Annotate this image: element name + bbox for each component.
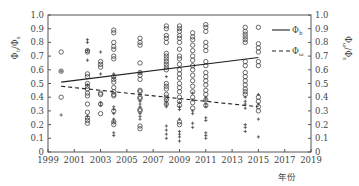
plus-marker: [99, 50, 102, 53]
plus-marker: [244, 126, 247, 129]
plus-marker: [165, 133, 168, 136]
x-tick-label: 2005: [116, 155, 138, 165]
y-tick-label: 0.5: [315, 79, 329, 89]
circle-marker: [190, 84, 194, 88]
left-y-axis-label: Φb/Φs: [10, 36, 21, 59]
circle-marker: [112, 31, 116, 35]
y-tick-label: 0.4: [30, 92, 44, 102]
plus-marker: [178, 135, 181, 138]
y-tick-label: 0.9: [315, 24, 329, 34]
circle-marker: [85, 110, 89, 114]
circle-marker: [243, 40, 247, 44]
plus-marker: [178, 105, 181, 108]
circle-marker: [85, 94, 89, 98]
plus-marker: [86, 59, 89, 62]
plus-marker: [165, 75, 168, 78]
y-tick-label: 0.2: [315, 120, 329, 130]
plus-marker: [86, 115, 89, 118]
circle-marker: [98, 65, 102, 69]
circle-marker: [177, 47, 181, 51]
plus-marker: [86, 49, 89, 52]
legend-label: Φb: [292, 25, 303, 36]
legend-label: Φω: [292, 46, 304, 57]
circle-marker: [164, 27, 168, 31]
x-tick-label: 2013: [221, 155, 243, 165]
y-tick-label: 0.8: [315, 37, 329, 47]
plus-marker: [244, 123, 247, 126]
x-axis-label: 年份: [278, 172, 296, 182]
circle-marker: [190, 37, 194, 41]
plus-marker: [165, 124, 168, 127]
circle-marker: [59, 50, 63, 54]
circle-marker: [59, 95, 63, 99]
plus-marker: [204, 116, 207, 119]
plus-marker: [204, 119, 207, 122]
plus-marker: [112, 131, 115, 134]
data-points: [59, 22, 261, 142]
plus-marker: [204, 131, 207, 134]
circle-marker: [85, 121, 89, 125]
plus-marker: [191, 122, 194, 125]
x-tick-label: 2003: [90, 155, 112, 165]
y-tick-label: 0.2: [30, 120, 44, 130]
y-tick-label: 0.1: [30, 133, 44, 143]
circle-marker: [138, 127, 142, 131]
circle-marker: [190, 43, 194, 47]
scatter-chart: 00.10.20.30.40.50.60.70.80.91.0 00.10.20…: [0, 0, 359, 186]
plus-marker: [204, 102, 207, 105]
plus-marker: [138, 115, 141, 118]
plus-marker: [99, 104, 102, 107]
x-tick-label: 2007: [142, 155, 164, 165]
plus-marker: [191, 126, 194, 129]
x-tick-label: 2015: [248, 155, 270, 165]
y-tick-label: 0.8: [30, 37, 44, 47]
circle-marker: [112, 80, 116, 84]
circle-marker: [177, 122, 181, 126]
legend: ΦbΦω: [272, 25, 304, 57]
circle-marker: [98, 111, 102, 115]
x-tick-label: 2009: [169, 155, 191, 165]
circle-marker: [164, 87, 168, 91]
svg-text:Φω/Φs: Φω/Φs: [342, 36, 353, 60]
circle-marker: [138, 61, 142, 65]
plus-marker: [244, 130, 247, 133]
plus-marker: [204, 98, 207, 101]
circle-marker: [112, 47, 116, 51]
y-tick-label: 0.6: [315, 65, 329, 75]
phi-w-trend-line: [61, 86, 258, 107]
y-tick-label: 0.5: [30, 79, 44, 89]
circle-marker: [177, 57, 181, 61]
plus-marker: [178, 139, 181, 142]
plus-marker: [257, 135, 260, 138]
plus-marker: [178, 133, 181, 136]
circle-marker: [138, 43, 142, 47]
y-tick-label: 0.1: [315, 133, 329, 143]
plus-marker: [112, 76, 115, 79]
circle-marker: [256, 25, 260, 29]
x-tick-label: 2001: [63, 155, 85, 165]
x-axis: 1999200120032005200720092011201320152017…: [37, 149, 322, 165]
y-tick-label: 0.3: [30, 106, 44, 116]
y-tick-label: 0.7: [315, 51, 329, 61]
plus-marker: [165, 137, 168, 140]
circle-marker: [112, 57, 116, 61]
y-tick-label: 0.9: [30, 24, 44, 34]
plus-marker: [60, 70, 63, 73]
plus-marker: [60, 113, 63, 116]
trend-lines: [61, 57, 258, 106]
plus-marker: [112, 108, 115, 111]
plus-marker: [257, 118, 260, 121]
plus-marker: [204, 137, 207, 140]
svg-text:Φb/Φs: Φb/Φs: [10, 36, 21, 59]
x-tick-label: 2017: [274, 155, 296, 165]
phi-b-trend-line: [61, 57, 258, 82]
plus-marker: [86, 38, 89, 41]
y-tick-label: 0.6: [30, 65, 44, 75]
x-tick-label: 2011: [195, 155, 217, 165]
plus-marker: [165, 102, 168, 105]
plus-marker: [191, 112, 194, 115]
circle-marker: [190, 48, 194, 52]
plus-marker: [204, 105, 207, 108]
circle-marker: [85, 102, 89, 106]
plus-marker: [112, 134, 115, 137]
